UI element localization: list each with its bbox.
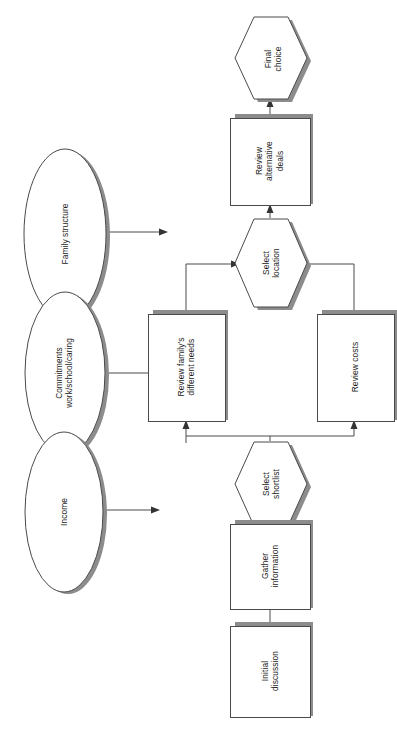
node-select-shortlist[interactable]: Select shortlist bbox=[233, 441, 313, 529]
node-income[interactable]: Income bbox=[22, 430, 110, 598]
node-review-alternative-deals[interactable]: Review alternative deals bbox=[230, 114, 310, 204]
node-final-choice[interactable]: Final choice bbox=[233, 16, 313, 102]
edge-shortlist-to-reviews bbox=[183, 420, 358, 443]
node-initial-discussion[interactable]: Initial discussion bbox=[230, 622, 310, 716]
edge-location-to-alt-deals bbox=[267, 204, 274, 218]
node-gather-information[interactable]: Gather information bbox=[230, 520, 310, 608]
node-review-costs[interactable]: Review costs bbox=[317, 310, 394, 420]
edge-family-needs-to-location bbox=[186, 261, 240, 311]
edge-family-structure-out bbox=[104, 229, 168, 236]
node-select-location[interactable]: Select location bbox=[233, 218, 313, 310]
node-review-family-needs[interactable]: Review family's different needs bbox=[148, 310, 225, 420]
